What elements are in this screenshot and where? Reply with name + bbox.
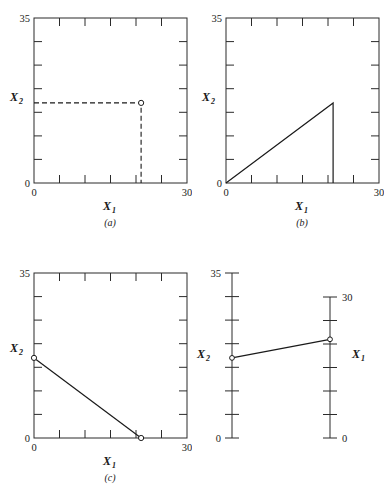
plot-frame: [34, 18, 187, 183]
x-axis-title: X 1: [102, 454, 116, 470]
svg-text:2: 2: [18, 348, 23, 357]
figure-container: 35 0 0 30 X 2 X 1 (a): [0, 0, 384, 490]
x-axis-max-label: 30: [182, 442, 192, 453]
left-axis-min-label: 0: [216, 433, 221, 444]
panel-c-plot: 35 0 0 30 X 2 X 1 (c): [0, 245, 192, 490]
x-axis-title: X 1: [102, 199, 116, 215]
panel-caption-b: (b): [296, 217, 308, 229]
svg-text:X: X: [201, 90, 211, 104]
y-axis-min-label: 0: [217, 178, 222, 189]
right-axis-ticks: [371, 42, 379, 160]
svg-text:X: X: [196, 347, 206, 361]
top-axis-ticks: [60, 273, 162, 281]
panel-a-plot: 35 0 0 30 X 2 X 1 (a): [0, 0, 192, 245]
svg-text:2: 2: [18, 97, 23, 106]
x-axis-ticks: [252, 175, 354, 183]
y-axis-ticks: [226, 42, 234, 160]
x-axis-ticks: [60, 175, 162, 183]
panel-caption-a: (a): [104, 217, 116, 229]
svg-text:X: X: [9, 90, 19, 104]
x-axis-max-label: 30: [374, 187, 384, 198]
svg-text:X: X: [351, 347, 361, 361]
y-axis-title: X 2: [201, 90, 215, 106]
y-axis-max-label: 35: [20, 13, 31, 24]
x-axis-max-label: 30: [182, 187, 192, 198]
svg-text:1: 1: [112, 206, 116, 215]
top-axis-ticks: [60, 18, 162, 26]
x-axis-min-label: 0: [223, 187, 228, 198]
data-series-descending-segment: [34, 358, 141, 438]
svg-text:X: X: [9, 341, 19, 355]
data-series-connector: [232, 339, 330, 358]
right-axis-ticks: [179, 297, 187, 415]
y-axis-min-label: 0: [25, 178, 30, 189]
left-axis-max-label: 35: [211, 268, 222, 279]
y-axis-max-label: 35: [20, 268, 31, 279]
svg-text:X: X: [102, 199, 112, 213]
right-axis-ticks: [179, 42, 187, 160]
panel-d: 35 0 X 2 30 0 X 1: [192, 245, 384, 490]
svg-text:1: 1: [112, 461, 116, 470]
panel-a: 35 0 0 30 X 2 X 1 (a): [0, 0, 192, 245]
y-axis-ticks: [34, 42, 42, 160]
data-series-ramp-drop: [226, 103, 333, 183]
x-axis-title: X 1: [294, 199, 308, 215]
svg-text:1: 1: [361, 354, 365, 363]
data-point-marker: [139, 100, 144, 105]
data-point-marker: [31, 355, 36, 360]
plot-frame: [34, 273, 187, 438]
svg-text:X: X: [102, 454, 112, 468]
plot-frame: [226, 18, 379, 183]
y-axis-title: X 2: [9, 90, 23, 106]
x-axis-min-label: 0: [31, 442, 36, 453]
left-axis-title: X 2: [196, 347, 210, 363]
y-axis-min-label: 0: [25, 433, 30, 444]
svg-text:X: X: [294, 199, 304, 213]
panel-d-plot: 35 0 X 2 30 0 X 1: [192, 245, 384, 490]
y-axis-max-label: 35: [212, 13, 223, 24]
data-point-marker: [328, 337, 333, 342]
x-axis-ticks: [60, 430, 162, 438]
top-axis-ticks: [252, 18, 354, 26]
right-axis-min-label: 0: [342, 433, 347, 444]
svg-text:2: 2: [205, 354, 210, 363]
data-point-marker: [139, 435, 144, 440]
right-axis-title: X 1: [351, 347, 365, 363]
panel-b: 35 0 0 30 X 2 X 1 (b): [192, 0, 384, 245]
y-axis-title: X 2: [9, 341, 23, 357]
right-axis-max-label: 30: [342, 292, 353, 303]
panel-b-plot: 35 0 0 30 X 2 X 1 (b): [192, 0, 384, 245]
data-series-corner-path: [34, 103, 141, 183]
x-axis-min-label: 0: [31, 187, 36, 198]
panel-c: 35 0 0 30 X 2 X 1 (c): [0, 245, 192, 490]
svg-text:1: 1: [304, 206, 308, 215]
panel-caption-c: (c): [104, 472, 116, 484]
svg-text:2: 2: [210, 97, 215, 106]
data-point-marker: [230, 356, 235, 361]
